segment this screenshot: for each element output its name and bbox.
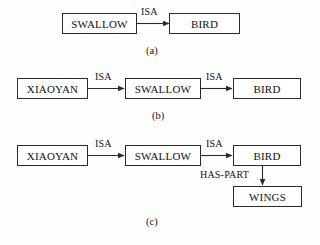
edge-label-b-isa-1: ISA — [95, 71, 112, 82]
node-c-bird[interactable]: BIRD — [233, 145, 301, 166]
caption-a: (a) — [146, 45, 158, 56]
node-c-xiaoyan[interactable]: XIAOYAN — [17, 145, 88, 166]
node-a-bird[interactable]: BIRD — [169, 13, 240, 34]
node-label: SWALLOW — [71, 18, 127, 30]
node-label: BIRD — [253, 83, 280, 95]
edge-label-c-isa-2: ISA — [206, 138, 223, 149]
caption-c: (c) — [146, 216, 158, 227]
node-b-xiaoyan[interactable]: XIAOYAN — [17, 78, 88, 99]
edge-label-a-isa: ISA — [141, 6, 158, 17]
figure-canvas: SWALLOW BIRD ISA (a) XIAOYAN SWALLOW BIR… — [0, 0, 320, 245]
node-a-swallow[interactable]: SWALLOW — [62, 13, 137, 34]
node-b-bird[interactable]: BIRD — [233, 78, 301, 99]
node-c-swallow[interactable]: SWALLOW — [125, 145, 201, 166]
node-label: SWALLOW — [135, 83, 191, 95]
node-label: WINGS — [249, 191, 286, 203]
connector-layer — [0, 0, 320, 245]
node-label: SWALLOW — [135, 150, 191, 162]
edge-label-b-isa-2: ISA — [206, 71, 223, 82]
node-label: XIAOYAN — [27, 83, 79, 95]
node-label: BIRD — [253, 150, 280, 162]
caption-b: (b) — [152, 110, 164, 121]
edge-label-c-has-part: HAS-PART — [200, 169, 249, 180]
edge-label-c-isa-1: ISA — [95, 138, 112, 149]
node-b-swallow[interactable]: SWALLOW — [125, 78, 201, 99]
node-label: XIAOYAN — [27, 150, 79, 162]
node-c-wings[interactable]: WINGS — [233, 186, 302, 207]
node-label: BIRD — [191, 18, 218, 30]
